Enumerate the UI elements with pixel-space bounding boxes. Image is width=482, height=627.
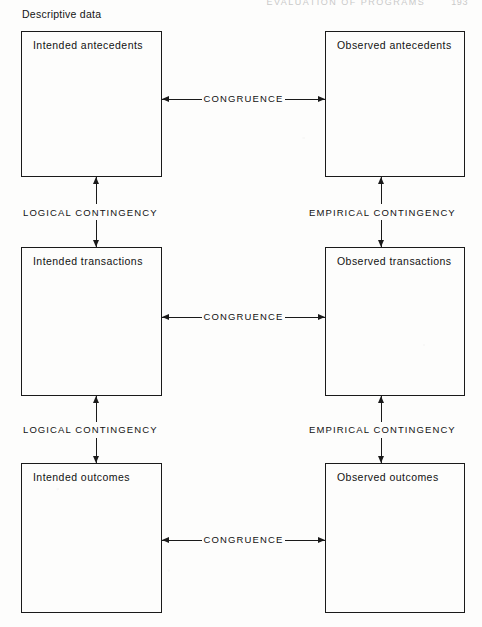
running-head-title: EVALUATION OF PROGRAMS (266, 0, 425, 6)
arrow-head-left-icon (162, 317, 202, 318)
arrow-head-up-icon (96, 396, 97, 422)
connector-label-logical-contingency-1: LOGICAL CONTINGENCY (21, 207, 160, 219)
box-observed-antecedents: Observed antecedents (325, 31, 465, 177)
arrow-head-down-icon (96, 220, 97, 247)
box-label-intended-antecedents: Intended antecedents (33, 39, 143, 51)
connector-label-congruence-antecedents: CONGRUENCE (202, 94, 284, 104)
connector-label-congruence-outcomes: CONGRUENCE (202, 535, 284, 545)
connector-congruence-outcomes: CONGRUENCE (162, 531, 325, 549)
arrow-head-left-icon (162, 99, 202, 100)
connector-congruence-antecedents: CONGRUENCE (162, 90, 325, 108)
box-intended-transactions: Intended transactions (21, 247, 162, 396)
arrow-head-down-icon (381, 220, 382, 247)
section-caption: Descriptive data (22, 8, 101, 20)
connector-label-logical-contingency-2: LOGICAL CONTINGENCY (21, 424, 160, 436)
arrow-head-down-icon (381, 438, 382, 464)
arrow-head-right-icon (285, 99, 325, 100)
box-observed-outcomes: Observed outcomes (325, 463, 465, 613)
arrow-head-down-icon (96, 438, 97, 464)
running-head: EVALUATION OF PROGRAMS 193 (266, 0, 468, 6)
arrow-head-up-icon (381, 396, 382, 422)
arrow-head-up-icon (381, 177, 382, 204)
page-folio: 193 (451, 0, 468, 6)
box-label-intended-outcomes: Intended outcomes (33, 471, 130, 483)
connector-congruence-transactions: CONGRUENCE (162, 308, 325, 326)
box-label-intended-transactions: Intended transactions (33, 255, 143, 267)
arrow-head-left-icon (162, 540, 202, 541)
box-intended-antecedents: Intended antecedents (21, 31, 162, 177)
connector-label-empirical-contingency-1: EMPIRICAL CONTINGENCY (307, 207, 458, 219)
box-label-observed-transactions: Observed transactions (337, 255, 452, 267)
box-intended-outcomes: Intended outcomes (21, 463, 162, 613)
box-observed-transactions: Observed transactions (325, 247, 465, 396)
arrow-head-right-icon (285, 540, 325, 541)
connector-label-empirical-contingency-2: EMPIRICAL CONTINGENCY (307, 424, 458, 436)
arrow-head-right-icon (285, 317, 325, 318)
diagram-page: EVALUATION OF PROGRAMS 193 Descriptive d… (0, 0, 482, 627)
box-label-observed-outcomes: Observed outcomes (337, 471, 439, 483)
box-label-observed-antecedents: Observed antecedents (337, 39, 452, 51)
arrow-head-up-icon (96, 177, 97, 204)
connector-label-congruence-transactions: CONGRUENCE (202, 312, 284, 322)
